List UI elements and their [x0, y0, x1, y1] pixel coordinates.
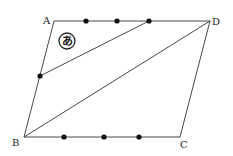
segment-AB-point-to-AD-point — [40, 21, 149, 76]
vertex-label-C: C — [180, 139, 188, 150]
point-BC-3 — [136, 134, 141, 139]
vertex-label-B: B — [12, 137, 19, 148]
vertex-label-A: A — [42, 15, 51, 26]
vertex-label-D: D — [212, 16, 220, 27]
parallelogram-diagram: あ A D B C — [0, 0, 233, 156]
edge-DC — [180, 21, 210, 137]
point-BC-2 — [101, 134, 106, 139]
point-AB — [37, 73, 42, 78]
edge-BA — [24, 21, 54, 137]
point-BC-1 — [61, 134, 66, 139]
point-AD-1 — [83, 18, 88, 23]
region-marker-symbol: あ — [62, 35, 73, 48]
diagonal-BD — [24, 21, 210, 137]
point-AD-3 — [146, 18, 151, 23]
point-AD-2 — [114, 18, 119, 23]
